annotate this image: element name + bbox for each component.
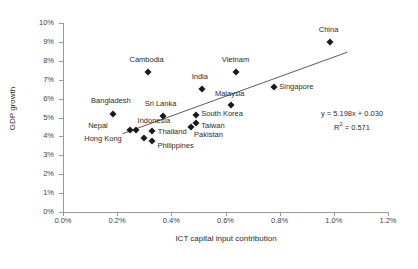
data-point-label: Sri Lanka [145,100,177,108]
data-point-marker [326,38,333,45]
y-tick-mark [59,118,63,119]
data-point-label: Malaysia [215,90,245,98]
data-point-marker [193,112,200,119]
data-point-marker [132,126,139,133]
y-tick-mark [59,99,63,100]
y-tick-label: 3% [0,151,54,159]
data-point-label: Indonesia [138,117,171,125]
data-point-marker [198,86,205,93]
x-tick-label: 0.4% [149,216,193,225]
y-tick-label: 10% [0,19,54,27]
y-tick-mark [59,61,63,62]
x-tick-label: 0.6% [204,216,248,225]
x-axis-title: ICT capital input contribution [63,234,389,243]
y-tick-mark [59,136,63,137]
data-point-label: Bangladesh [91,97,131,105]
y-axis-title: GDP growth [8,69,17,149]
y-tick-mark [59,193,63,194]
data-point-marker [141,135,148,142]
y-tick-mark [59,42,63,43]
r-squared-value: = 0.571 [343,123,370,132]
data-point-label: Singapore [279,83,313,91]
scatter-chart: 0%1%2%3%4%5%6%7%8%9%10% 0.0%0.2%0.4%0.6%… [0,0,418,269]
y-tick-label: 8% [0,57,54,65]
y-tick-mark [59,80,63,81]
y-tick-mark [59,174,63,175]
data-point-label: Thailand [158,128,187,136]
data-point-marker [149,137,156,144]
x-tick-label: 0.2% [95,216,139,225]
data-point-label: Pakistan [194,131,223,139]
data-point-label: Taiwan [201,122,224,130]
data-point-label: China [319,26,339,34]
data-point-label: South Korea [201,110,243,118]
data-point-marker [148,127,155,134]
y-tick-label: 0% [0,208,54,216]
x-tick-label: 0.8% [258,216,302,225]
data-point-marker [233,69,240,76]
x-tick-label: 0.0% [41,216,85,225]
data-point-label: Hong Kong [84,135,122,143]
data-point-label: Cambodia [130,56,164,64]
r-squared: R2 = 0.571 [296,119,408,133]
data-point-marker [227,102,234,109]
y-tick-label: 2% [0,170,54,178]
data-point-label: Nepal [88,122,108,130]
data-point-marker [271,84,278,91]
y-tick-label: 1% [0,189,54,197]
data-point-label: India [192,73,208,81]
y-axis-line [63,23,64,213]
data-point-label: Vietnam [222,56,249,64]
data-point-marker [110,110,117,117]
x-tick-label: 1.2% [366,216,410,225]
y-tick-mark [59,155,63,156]
data-point-marker [144,69,151,76]
regression-equation-box: y = 5.198x + 0.030 R2 = 0.571 [296,108,408,133]
x-tick-label: 1.0% [312,216,356,225]
y-tick-mark [59,23,63,24]
y-tick-label: 9% [0,38,54,46]
data-point-label: Philippines [157,142,193,150]
regression-equation: y = 5.198x + 0.030 [296,108,408,119]
